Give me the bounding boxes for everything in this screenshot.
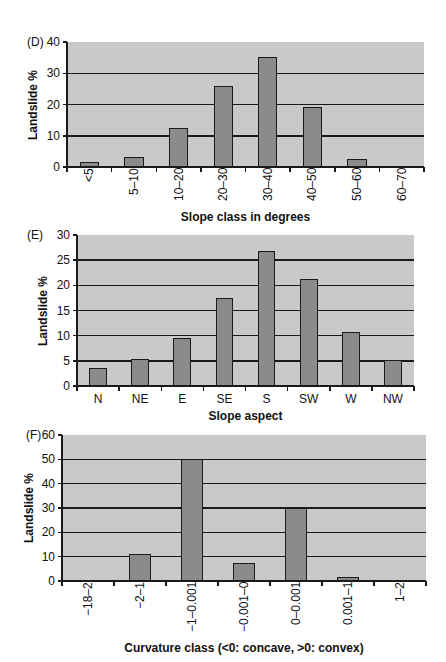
x-tick [113, 581, 115, 586]
x-axis-title: Curvature class (<0: concave, >0: convex… [62, 641, 426, 655]
gridline [62, 459, 426, 461]
chart-f: (F)0102030405060−18–2−2–1−1–0.001−0.001–… [0, 0, 446, 662]
x-tick-label: 0–0.001 [290, 582, 302, 625]
gridline [62, 507, 426, 509]
bar [233, 563, 255, 581]
x-tick [165, 581, 167, 586]
bar [129, 554, 151, 581]
x-tick-label: −0.001–0 [238, 582, 250, 632]
x-tick [425, 581, 427, 586]
x-tick-label: 0.001–1 [342, 582, 354, 625]
y-axis-title: Landslide % [22, 448, 36, 568]
x-tick [217, 581, 219, 586]
x-tick [373, 581, 375, 586]
y-axis [61, 435, 63, 581]
x-tick [61, 581, 63, 586]
x-tick [269, 581, 271, 586]
x-tick-label: −1–0.001 [186, 582, 198, 632]
y-tick-label: 60 [31, 429, 55, 441]
bar [181, 459, 203, 581]
x-tick-label: −18–2 [82, 582, 94, 616]
y-tick-label: 0 [31, 575, 55, 587]
x-tick-label: −2–1 [134, 582, 146, 609]
x-tick-label: 1–2 [394, 582, 406, 602]
plot-area [62, 435, 426, 581]
gridline [62, 556, 426, 558]
gridline [62, 483, 426, 485]
x-tick [321, 581, 323, 586]
bar [285, 508, 307, 581]
gridline [62, 532, 426, 534]
